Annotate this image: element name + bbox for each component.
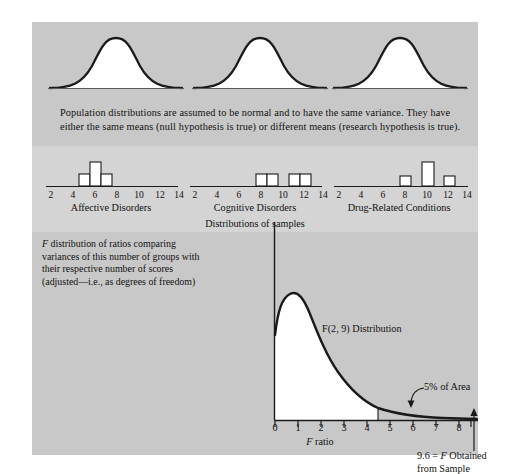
tick-label: 4: [210, 189, 224, 200]
population-curve-1: [48, 26, 184, 98]
tick-label: 6: [232, 189, 246, 200]
fdistribution-note-line3: their respective number of scores: [42, 263, 173, 274]
tick-label: 14: [460, 189, 474, 200]
tick-label: 10: [132, 189, 146, 200]
x-tick-label: 3: [337, 422, 351, 433]
fdistribution-note-line4: (adjusted—i.e., as degrees of freedom): [42, 276, 195, 287]
x-tick-label: 5: [383, 422, 397, 433]
x-tick-label: 7: [429, 422, 443, 433]
x-tick-label: 2: [314, 422, 328, 433]
tick-label: 4: [66, 189, 80, 200]
tick-label: 4: [354, 189, 368, 200]
obtained-f-prefix: 9.6 =: [417, 450, 441, 461]
obtained-f-line2: from Sample: [417, 463, 470, 474]
tick-label: 12: [441, 189, 455, 200]
histogram-2-title: Cognitive Disorders: [182, 202, 328, 213]
x-axis-label-text: ratio: [313, 436, 334, 447]
fdistribution-x-tick-labels: 0 1 2 3 4 5 6 7 8: [228, 422, 478, 436]
histogram-bars-3: [326, 148, 472, 192]
population-caption: Population distributions are assumed to …: [60, 106, 464, 134]
histogram-1-axis-ticks: 2 4 6 8 10 12 14: [38, 189, 184, 203]
tick-label: 2: [44, 189, 58, 200]
fdistribution-body-area: [275, 293, 378, 420]
figure-root: Population distributions are assumed to …: [0, 0, 505, 474]
tick-label: 6: [376, 189, 390, 200]
population-curve-3: [332, 26, 468, 98]
tick-label: 12: [153, 189, 167, 200]
histogram-1-title: Affective Disorders: [38, 202, 184, 213]
x-tick-label: 6: [406, 422, 420, 433]
tick-label: 10: [276, 189, 290, 200]
area-leader-line: [411, 388, 424, 402]
area-leader-arrowhead: [408, 401, 415, 408]
fdistribution-note: F distribution of ratios comparing varia…: [42, 238, 252, 288]
sample-distributions-band: 2 4 6 8 10 12 14 Affective Disorders: [32, 146, 478, 232]
x-tick-label: 8: [452, 422, 466, 433]
obtained-f-label: 9.6 = F Obtained from Sample: [417, 449, 487, 474]
histogram-bars-2: [182, 148, 328, 192]
histogram-bars-1: [38, 148, 184, 192]
tick-label: 2: [332, 189, 346, 200]
tick-label: 8: [110, 189, 124, 200]
fdistribution-plot: 0 1 2 3 4 5 6 7 8 F ratio F(2, 9) Distri…: [228, 222, 478, 452]
population-distributions-band: [32, 22, 478, 100]
histogram-3-title: Drug-Related Conditions: [326, 202, 472, 213]
fdistribution-note-line1: distribution of ratios comparing: [48, 238, 176, 249]
x-tick-label: 0: [268, 422, 282, 433]
x-tick-label: 4: [360, 422, 374, 433]
tick-label: 8: [398, 189, 412, 200]
histogram-3-axis-ticks: 2 4 6 8 10 12 14: [326, 189, 472, 203]
figure-panel: Population distributions are assumed to …: [32, 22, 478, 455]
tick-label: 12: [297, 189, 311, 200]
fdistribution-note-line2: variances of this number of groups with: [42, 251, 199, 262]
x-tick-label: 1: [291, 422, 305, 433]
population-curve-2: [192, 26, 328, 98]
histogram-2-axis-ticks: 2 4 6 8 10 12 14: [182, 189, 328, 203]
fdistribution-chart-svg: [228, 222, 478, 452]
five-percent-area-label: 5% of Area: [424, 381, 470, 392]
tick-label: 6: [88, 189, 102, 200]
obtained-value-arrowhead: [470, 408, 477, 416]
fdistribution-curve-label: F(2, 9) Distribution: [322, 323, 402, 334]
tick-label: 2: [188, 189, 202, 200]
fdistribution-x-axis-label: F ratio: [275, 436, 365, 447]
obtained-f-rest: Obtained: [447, 450, 487, 461]
tick-label: 8: [254, 189, 268, 200]
tick-label: 10: [420, 189, 434, 200]
